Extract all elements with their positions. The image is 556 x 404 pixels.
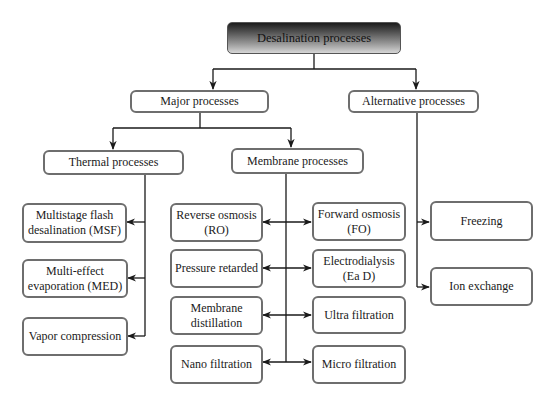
node-label: Pressure retarded: [175, 261, 258, 276]
node-micro-filtration: Micro filtration: [312, 345, 406, 384]
node-label: Micro filtration: [322, 357, 396, 372]
node-alternative-processes: Alternative processes: [348, 90, 479, 113]
node-vapor-compression: Vapor compression: [22, 317, 128, 356]
node-membrane-distillation: Membrane distillation: [170, 296, 263, 335]
node-label: Thermal processes: [69, 155, 159, 170]
node-label: Membrane distillation: [175, 301, 258, 331]
node-pressure-retarded: Pressure retarded: [170, 249, 263, 288]
node-ultra-filtration: Ultra filtration: [312, 296, 406, 334]
node-major-processes: Major processes: [130, 90, 269, 113]
node-reverse-osmosis: Reverse osmosis (RO): [170, 203, 263, 242]
node-thermal-processes: Thermal processes: [43, 150, 184, 175]
node-label: Ion exchange: [449, 279, 513, 294]
node-label: Membrane processes: [247, 154, 348, 169]
node-freezing: Freezing: [430, 201, 533, 241]
node-label: Alternative processes: [362, 94, 465, 109]
node-med: Multi-effect evaporation (MED): [22, 259, 128, 298]
node-label: Major processes: [160, 94, 238, 109]
node-membrane-processes: Membrane processes: [231, 148, 364, 174]
node-ion-exchange: Ion exchange: [430, 267, 533, 306]
node-label: Electrodialysis (Ea D): [317, 254, 401, 284]
node-label: Desalination processes: [257, 31, 371, 46]
node-msf: Multistage flash desalination (MSF): [22, 203, 127, 243]
node-label: Freezing: [461, 214, 503, 229]
node-label: Multi-effect evaporation (MED): [27, 264, 123, 294]
node-desalination-processes: Desalination processes: [227, 22, 401, 54]
node-label: Ultra filtration: [324, 308, 394, 323]
node-forward-osmosis: Forward osmosis (FO): [312, 202, 406, 241]
node-label: Reverse osmosis (RO): [175, 208, 258, 238]
node-label: Multistage flash desalination (MSF): [27, 208, 122, 238]
node-label: Forward osmosis (FO): [317, 207, 401, 237]
node-label: Nano filtration: [181, 357, 252, 372]
node-nano-filtration: Nano filtration: [170, 345, 263, 384]
node-electrodialysis: Electrodialysis (Ea D): [312, 249, 406, 288]
node-label: Vapor compression: [29, 329, 121, 344]
